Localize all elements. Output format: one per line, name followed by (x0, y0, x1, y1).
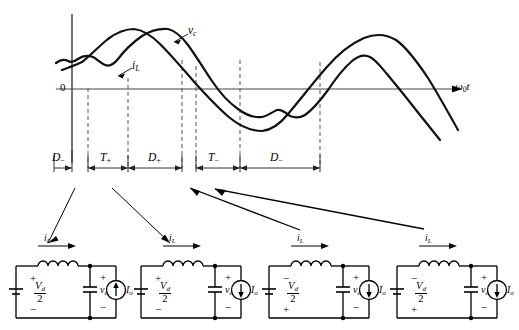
circuit-1-source-value: Vd2 (34, 281, 46, 305)
il-arrow-head (449, 243, 457, 249)
current-source-arrow-head-down (238, 292, 244, 298)
circuit-1: iL + − Vd2 + − vc Io (8, 232, 130, 328)
circuit-3-schematic (261, 232, 383, 328)
inductor-icon (419, 261, 459, 266)
inductor-icon (163, 261, 203, 266)
node-top (213, 264, 217, 268)
connector-3-arrowhead (190, 188, 200, 196)
interval-2-sign: + (156, 156, 161, 165)
circuit-1-source-denominator: 2 (34, 294, 46, 305)
curve-il (56, 29, 440, 140)
node-bottom (88, 316, 92, 320)
waveform-plot (0, 0, 519, 200)
circuit-4-cap-minus: − (481, 302, 487, 313)
circuit-2: iL + − Vd2 + − vc Io (133, 232, 255, 328)
current-source-arrow-head-down (366, 292, 372, 298)
circuit-3-cap-label: vc (353, 285, 360, 297)
current-source-arrow-head-down (494, 292, 500, 298)
circuit-2-cap-minus: − (225, 302, 231, 313)
circuit-4-source-numerator: Vd (415, 281, 427, 294)
circuit-4-il-label: iL (425, 233, 432, 245)
interval-0-sign: − (60, 156, 65, 165)
circuit-4-source-value: Vd2 (415, 281, 427, 305)
circuit-4-cap-plus: + (481, 272, 487, 283)
origin-label: 0 (60, 82, 66, 93)
circuit-2-schematic (133, 232, 255, 328)
il-leader-line (118, 68, 132, 76)
x-axis-label-t: t (467, 80, 470, 92)
circuit-3-il-label: iL (297, 233, 304, 245)
circuit-3-source-denominator: 2 (287, 294, 299, 305)
circuit-3-source-numerator: Vd (287, 281, 299, 294)
curve-vc (62, 29, 458, 131)
interval-1-sign: + (106, 156, 111, 165)
circuit-4-schematic (389, 232, 511, 328)
vc-label-sub: c (193, 29, 196, 38)
circuit-3-cap-minus: − (353, 302, 359, 313)
x-axis-label-omega: ω (455, 80, 463, 92)
circuit-2-source-numerator: Vd (159, 281, 171, 294)
node-top (341, 264, 345, 268)
interval-label-d-minus-2: D− (270, 152, 283, 165)
vc-curve-label: vc (188, 25, 197, 38)
circuit-1-source-minus: − (30, 304, 36, 315)
il-label-sub: L (135, 64, 139, 73)
connector-4-arrowhead (215, 189, 226, 196)
interval-label-d-minus-1: D− (52, 152, 65, 165)
node-bottom (213, 316, 217, 320)
circuit-4-cap-label: vc (481, 285, 488, 297)
interval-label-t-minus: T− (208, 152, 219, 165)
circuit-2-cap-plus: + (225, 272, 231, 283)
circuit-2-source-value: Vd2 (159, 281, 171, 305)
circuit-4: iL − + Vd2 + − vc Io (389, 232, 511, 328)
circuit-4-io-label: Io (507, 285, 514, 297)
circuit-2-io-label: Io (251, 285, 258, 297)
inductor-icon (291, 261, 331, 266)
x-axis-label: ω0t (455, 81, 470, 94)
circuit-1-cap-plus: + (100, 272, 106, 283)
circuit-2-source-denominator: 2 (159, 294, 171, 305)
interval-4-sign: − (278, 156, 283, 165)
circuit-2-source-minus: − (155, 304, 161, 315)
circuit-1-il-label: iL (44, 233, 51, 245)
circuit-3: iL − + Vd2 + − vc Io (261, 232, 383, 328)
il-arrow-head (321, 243, 329, 249)
interval-label-d-plus: D+ (148, 152, 161, 165)
circuit-2-cap-label: vc (225, 285, 232, 297)
il-curve-label: iL (132, 60, 140, 73)
interval-3-sign: − (214, 156, 219, 165)
il-arrow-head (193, 243, 201, 249)
interval-label-t-plus: T+ (100, 152, 111, 165)
circuit-1-cap-minus: − (100, 302, 106, 313)
circuit-3-io-label: Io (379, 285, 386, 297)
circuit-1-io-label: Io (126, 285, 133, 297)
circuit-4-source-plus: + (411, 304, 417, 315)
circuit-1-source-numerator: Vd (34, 281, 46, 294)
il-arrow-head (68, 243, 76, 249)
circuit-1-cap-label: vc (100, 285, 107, 297)
figure-root: 0 ω0t vc iL D− T+ D+ T− D− (0, 0, 519, 330)
node-bottom (341, 316, 345, 320)
node-top (88, 264, 92, 268)
circuit-2-il-label: iL (169, 233, 176, 245)
circuit-4-source-denominator: 2 (415, 294, 427, 305)
node-bottom (469, 316, 473, 320)
inductor-icon (38, 261, 78, 266)
circuit-1-schematic (8, 232, 130, 328)
circuit-3-source-value: Vd2 (287, 281, 299, 305)
current-source-arrow-head-up (113, 282, 119, 288)
circuit-3-source-plus: + (283, 304, 289, 315)
circuit-3-cap-plus: + (353, 272, 359, 283)
node-top (469, 264, 473, 268)
